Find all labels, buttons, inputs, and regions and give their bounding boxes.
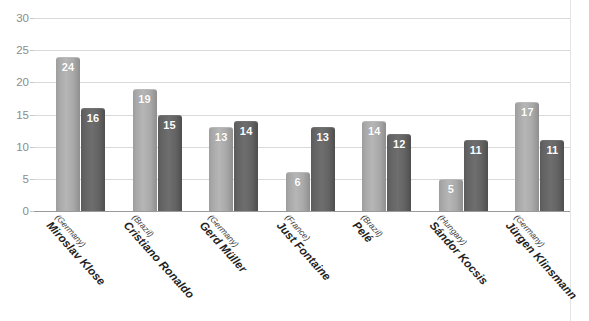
bar-value-label: 17	[515, 106, 539, 118]
y-axis-tick-label: 30	[0, 12, 29, 24]
bar: 15	[158, 115, 182, 212]
bar: 24	[56, 57, 80, 211]
bar: 17	[515, 102, 539, 211]
y-axis-tick-label: 10	[0, 141, 29, 153]
y-axis: 051015202530	[0, 18, 29, 211]
bar-group: 1711	[515, 18, 564, 211]
bar-group: 1915	[133, 18, 182, 211]
category-country: (Brazil)	[130, 212, 204, 292]
bar-group: 1314	[209, 18, 258, 211]
x-axis-category-label: (Brazil)Pelé	[350, 213, 384, 248]
bar-value-label: 13	[311, 131, 335, 143]
bar: 11	[540, 140, 564, 211]
y-axis-tick-label: 25	[0, 44, 29, 56]
y-axis-tick-label: 5	[0, 173, 29, 185]
category-name: Jürgen Klinsmann	[503, 219, 580, 302]
bar: 16	[81, 108, 105, 211]
bar-group: 511	[439, 18, 488, 211]
bar-value-label: 11	[464, 144, 488, 156]
bar: 13	[209, 127, 233, 211]
bar: 5	[439, 179, 463, 211]
bar-value-label: 24	[56, 61, 80, 73]
bar-value-label: 11	[540, 144, 564, 156]
x-axis-line	[34, 211, 570, 212]
plot-area: 24161915131461314125111711	[34, 18, 570, 211]
bar: 14	[234, 121, 258, 211]
bar-group: 2416	[56, 18, 105, 211]
y-axis-tick-label: 20	[0, 76, 29, 88]
x-axis-category-label: (France)Just Fontaine	[273, 213, 339, 283]
bar-value-label: 15	[158, 119, 182, 131]
chart-top-border	[34, 0, 570, 1]
bar: 19	[133, 89, 157, 211]
x-axis-labels: (Germany)Miroslav Klose(Brazil)Cristiano…	[0, 213, 589, 321]
x-axis-category-label: (Brazil)Cristiano Ronaldo	[120, 213, 203, 301]
x-axis-category-label: (Hungary)Sándor Kocsis	[426, 213, 496, 288]
bar-value-label: 16	[81, 112, 105, 124]
y-axis-tick-label: 15	[0, 109, 29, 121]
bar-group: 1412	[362, 18, 411, 211]
bar-value-label: 14	[234, 125, 258, 137]
bar-value-label: 6	[286, 176, 310, 188]
bar: 13	[311, 127, 335, 211]
x-axis-category-label: (Germany)Gerd Müller	[197, 213, 256, 275]
bar: 12	[387, 134, 411, 211]
bar-value-label: 5	[439, 183, 463, 195]
bar-value-label: 13	[209, 131, 233, 143]
x-axis-category-label: (Germany)Jürgen Klinsmann	[503, 213, 586, 302]
bar-group: 613	[286, 18, 335, 211]
bar-chart: 051015202530 24161915131461314125111711 …	[0, 0, 589, 321]
bar-value-label: 19	[133, 93, 157, 105]
bar-value-label: 14	[362, 125, 386, 137]
bar: 6	[286, 172, 310, 211]
bar: 11	[464, 140, 488, 211]
category-name: Cristiano Ronaldo	[120, 219, 196, 301]
bar: 14	[362, 121, 386, 211]
bar-value-label: 12	[387, 138, 411, 150]
x-axis-category-label: (Germany)Miroslav Klose	[44, 213, 115, 288]
